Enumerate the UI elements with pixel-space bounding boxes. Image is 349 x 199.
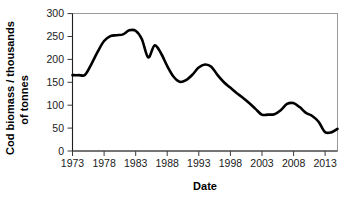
y-tick-label: 300 [46,7,64,19]
y-tick-labels: 0 50 100 150 200 250 300 [46,7,64,156]
x-tick-label: 2013 [313,157,337,169]
y-tick-label: 200 [46,53,64,65]
y-axis-title-line1: Cod biomass / thousands [4,21,16,155]
x-tick-labels: 1973 1978 1983 1988 1993 1998 2003 2008 … [61,157,337,169]
x-tick-label: 1988 [156,157,180,169]
x-tick-label: 1993 [187,157,211,169]
line-chart-canvas: 0 50 100 150 200 250 300 1973 1978 1983 … [0,0,349,199]
x-tick-label: 1983 [124,157,148,169]
axis-lines [73,14,338,152]
x-tick-label: 1998 [219,157,243,169]
y-axis-title-line2: of tonnes [18,75,30,125]
x-tick-label: 1973 [61,157,85,169]
y-tick-label: 100 [46,99,64,111]
data-series-line [73,30,338,133]
y-tick-label: 50 [52,122,64,134]
x-tick-label: 1978 [92,157,116,169]
y-tick-marks [68,14,73,151]
x-tick-marks [73,151,326,156]
y-tick-label: 150 [46,76,64,88]
chart-figure: 0 50 100 150 200 250 300 1973 1978 1983 … [0,0,349,199]
x-axis-title: Date [193,180,217,192]
y-tick-label: 250 [46,30,64,42]
x-tick-label: 2003 [250,157,274,169]
y-tick-label: 0 [58,145,64,157]
plot-frame [73,14,338,152]
x-tick-label: 2008 [282,157,306,169]
